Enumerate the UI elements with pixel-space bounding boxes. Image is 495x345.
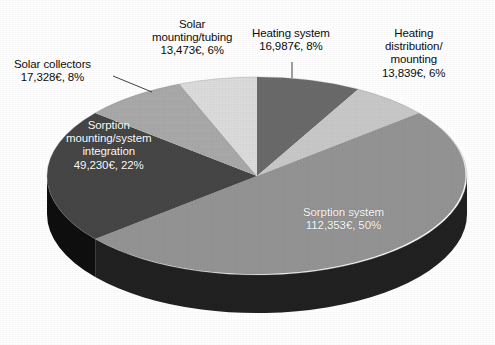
- label-sorption-mounting-name-2: mounting/system: [66, 132, 151, 145]
- label-heating-dist-name-1: Heating: [382, 27, 445, 40]
- label-solar-mounting-value: 13,473€, 6%: [152, 44, 232, 57]
- label-heating-dist-name-3: mounting: [382, 53, 445, 66]
- leader-line-solar-collectors: [113, 76, 152, 92]
- label-heating-dist-value: 13,839€, 6%: [382, 67, 445, 80]
- label-heating-distribution-mounting: Heating distribution/ mounting 13,839€, …: [382, 27, 445, 80]
- label-heating-dist-name-2: distribution/: [382, 40, 445, 53]
- label-solar-collectors-value: 17,328€, 8%: [14, 71, 91, 84]
- label-sorption-system: Sorption system 112,353€, 50%: [303, 206, 384, 232]
- label-solar-collectors-name: Solar collectors: [14, 58, 91, 71]
- label-heating-system-name: Heating system: [252, 27, 330, 40]
- label-heating-system: Heating system 16,987€, 8%: [252, 27, 330, 53]
- label-sorption-mounting-name-1: Sorption: [66, 119, 151, 132]
- label-sorption-mounting-value: 49,230€, 22%: [66, 159, 151, 172]
- label-sorption-mounting-system-integration: Sorption mounting/system integration 49,…: [66, 119, 151, 172]
- label-heating-system-value: 16,987€, 8%: [252, 40, 330, 53]
- label-sorption-mounting-name-3: integration: [66, 145, 151, 158]
- label-solar-mounting-name-2: mounting/tubing: [152, 31, 232, 44]
- label-solar-mounting-name-1: Solar: [152, 18, 232, 31]
- label-sorption-system-value: 112,353€, 50%: [303, 219, 384, 232]
- pie-chart-figure: Solar collectors 17,328€, 8% Solar mount…: [0, 0, 495, 345]
- label-solar-collectors: Solar collectors 17,328€, 8%: [14, 58, 91, 84]
- pie-top-face: [47, 77, 466, 274]
- label-sorption-system-name: Sorption system: [303, 206, 384, 219]
- label-solar-mounting-tubing: Solar mounting/tubing 13,473€, 6%: [152, 18, 232, 58]
